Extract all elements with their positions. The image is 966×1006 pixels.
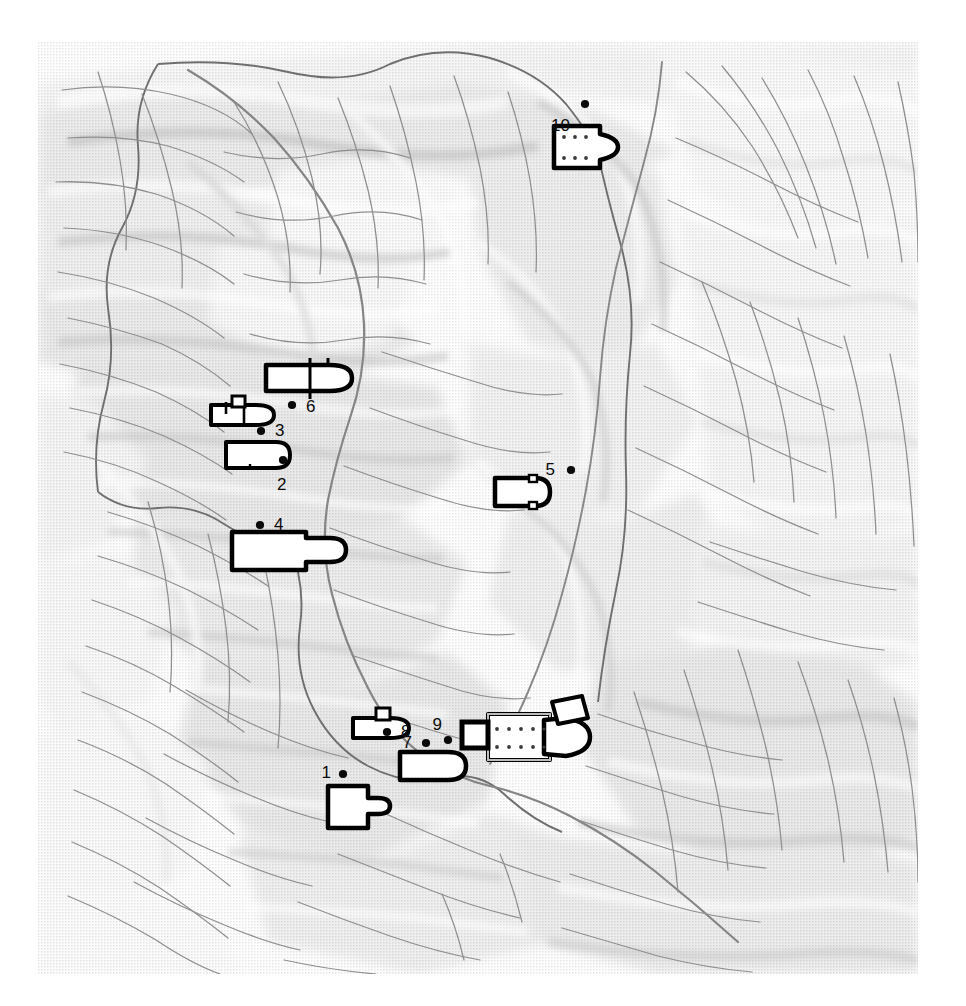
church-plan-5[interactable] [495,475,550,509]
marker-dot-icon [422,739,430,747]
marker-label-2: 2 [277,475,286,494]
marker-dot-icon [383,728,391,736]
marker-label-3: 3 [275,421,284,440]
marker-label-6: 6 [306,397,315,416]
marker-dot-icon [581,100,589,108]
marker-dot-icon [288,401,296,409]
marker-dot-icon [257,427,265,435]
marker-dot-icon [279,456,287,464]
church-plan-7[interactable] [400,752,466,780]
marker-label-1: 1 [322,763,331,782]
marker-dot-icon [444,736,452,744]
marker-dot-icon [256,521,264,529]
relief-map: 12345678910 [38,42,918,974]
map-page: 12345678910 [0,0,966,1006]
marker-label-10: 10 [551,116,570,135]
marker-dot-icon [339,770,347,778]
marker-dot-icon [567,466,575,474]
marker-label-8: 8 [401,722,410,741]
marker-label-5: 5 [546,460,555,479]
marker-label-4: 4 [274,515,283,534]
church-plan-2[interactable] [226,442,290,470]
map-frame: 12345678910 [38,42,918,974]
marker-label-9: 9 [433,715,442,734]
